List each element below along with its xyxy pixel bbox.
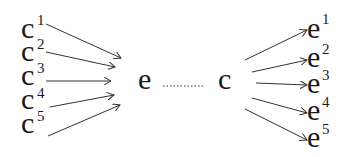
svg-text:2: 2 [322,41,330,57]
right-node-5: e 5 [307,120,330,153]
svg-text:2: 2 [37,36,45,52]
arrow-c-to-e4 [252,98,307,113]
left-node-5: c 5 [21,106,45,139]
arrow-c4-to-e [50,95,114,107]
svg-text:3: 3 [37,60,45,76]
center-node-c: c [218,62,231,95]
arrow-c5-to-e [48,105,120,136]
svg-text:c: c [21,106,34,139]
arrow-c-to-e3 [256,83,307,85]
svg-text:4: 4 [322,94,330,110]
svg-text:5: 5 [322,121,330,137]
arrow-c-to-e1 [245,30,307,60]
arrow-c1-to-e [46,24,121,58]
arrow-c-to-e2 [252,60,307,72]
diagram-canvas: c 1 c 2 c 3 c 4 c 5 e c e 1 e 2 e 3 [0,0,355,157]
svg-text:e: e [307,120,320,153]
svg-text:3: 3 [322,67,330,83]
svg-text:5: 5 [37,108,45,124]
arrow-c2-to-e [46,52,115,67]
center-node-e: e [138,62,151,95]
arrow-c-to-e5 [245,109,307,140]
svg-text:4: 4 [37,85,45,101]
svg-text:1: 1 [322,11,330,27]
svg-text:1: 1 [37,12,45,28]
